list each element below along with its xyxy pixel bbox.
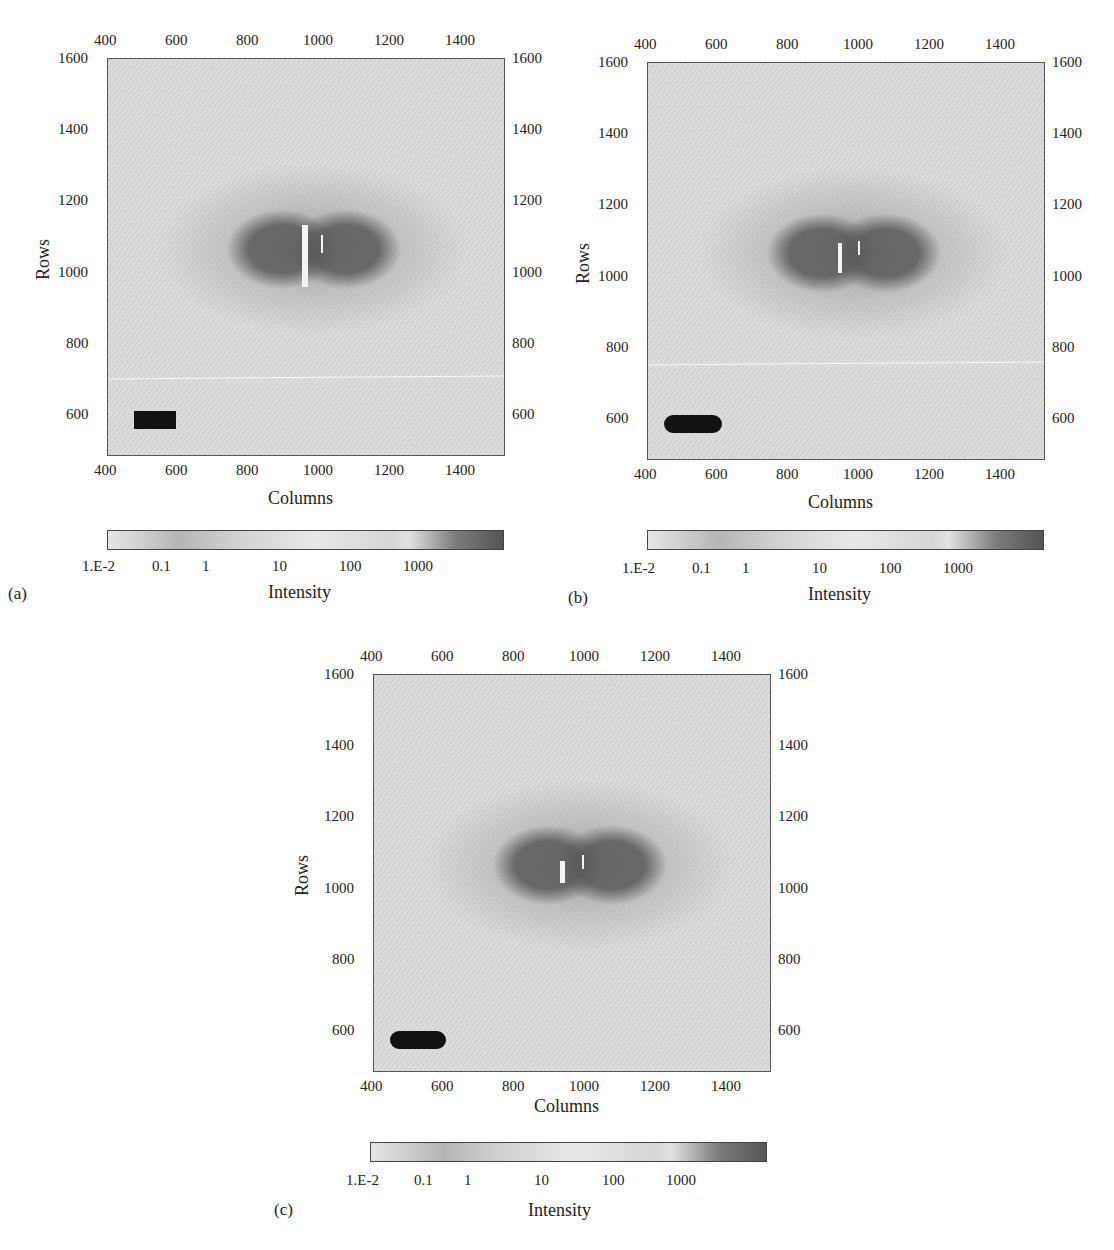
panel-b: 400 600 800 1000 1200 1400 400 600 800 1…: [540, 4, 1114, 614]
beam-streak: [302, 225, 308, 287]
beam-streak-secondary: [858, 241, 860, 255]
beam-streak: [560, 861, 565, 883]
heatmap-b: [647, 62, 1045, 460]
beamstop: [390, 1031, 446, 1049]
detector-gap-line: [108, 376, 504, 380]
panel-label: (b): [568, 588, 588, 608]
colorbar-title: Intensity: [808, 584, 871, 605]
colorbar-a: [107, 530, 504, 550]
beam-streak-secondary: [321, 235, 323, 253]
colorbar-b: [647, 530, 1044, 550]
beam-streak: [838, 243, 842, 273]
beamstop: [134, 411, 176, 429]
panel-c: 400 600 800 1000 1200 1400 400 600 800 1…: [266, 616, 840, 1226]
y-axis-title: Rows: [292, 855, 313, 896]
beamstop: [664, 415, 722, 433]
y-axis-title: Rows: [573, 243, 594, 284]
x-axis-title: Columns: [808, 492, 873, 513]
panel-label: (a): [8, 584, 27, 604]
colorbar-c: [370, 1142, 767, 1162]
heatmap-a: [107, 58, 505, 456]
panel-a: 400 600 800 1000 1200 1400 400 600 800 1…: [0, 0, 560, 610]
panel-label: (c): [274, 1200, 293, 1220]
colorbar-title: Intensity: [268, 582, 331, 603]
x-axis-title: Columns: [268, 488, 333, 509]
detector-gap-line: [648, 362, 1044, 366]
heatmap-c: [373, 674, 771, 1072]
y-axis-title: Rows: [33, 239, 54, 280]
colorbar-title: Intensity: [528, 1200, 591, 1221]
beam-streak-secondary: [582, 855, 584, 869]
x-axis-title: Columns: [534, 1096, 599, 1117]
